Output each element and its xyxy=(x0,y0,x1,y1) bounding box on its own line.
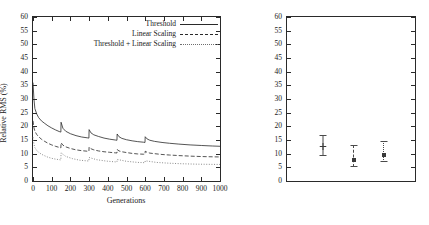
left-x-axis-label: Generations xyxy=(107,196,146,205)
x-tick-label: 500 xyxy=(121,185,132,193)
x-tick-label: 800 xyxy=(177,185,188,193)
y-tick-label: 50 xyxy=(232,41,282,49)
y-tick-label: 5 xyxy=(0,164,28,172)
y-tick-label: 5 xyxy=(232,164,282,172)
series-line xyxy=(33,137,220,164)
y-tick xyxy=(411,167,415,168)
series-line xyxy=(33,83,220,147)
y-tick-label: 0 xyxy=(0,177,28,185)
y-tick xyxy=(411,181,415,182)
y-tick xyxy=(287,99,291,100)
y-tick-label: 10 xyxy=(232,150,282,158)
data-point-marker xyxy=(319,136,326,154)
y-tick-label: 40 xyxy=(232,68,282,76)
y-tick-label: 50 xyxy=(0,41,28,49)
left-chart-panel: Relative RMS (%) 05101520253035404550556… xyxy=(0,0,232,225)
y-tick xyxy=(411,31,415,32)
y-tick xyxy=(411,140,415,141)
legend-item-threshold: Threshold xyxy=(96,19,218,29)
y-tick xyxy=(287,58,291,59)
x-tick-label: 200 xyxy=(65,185,76,193)
y-tick-label: 55 xyxy=(0,27,28,35)
y-tick xyxy=(287,31,291,32)
y-tick xyxy=(411,85,415,86)
y-tick-label: 60 xyxy=(0,13,28,21)
errorbar-line xyxy=(383,141,385,162)
x-tick xyxy=(220,177,221,181)
y-tick-label: 35 xyxy=(232,82,282,90)
errorbar-cap xyxy=(381,161,388,162)
errorbar-ls xyxy=(348,145,360,167)
left-legend: Threshold Linear Scaling Threshold + Lin… xyxy=(96,19,218,49)
y-tick-label: 30 xyxy=(232,95,282,103)
data-point-marker xyxy=(352,158,356,162)
y-tick-label: 20 xyxy=(232,123,282,131)
y-tick-label: 25 xyxy=(232,109,282,117)
x-tick-label: 100 xyxy=(46,185,57,193)
x-tick xyxy=(220,17,221,21)
legend-item-threshold-linear-scaling: Threshold + Linear Scaling xyxy=(96,39,218,49)
y-tick xyxy=(287,140,291,141)
y-tick-label: 60 xyxy=(232,13,282,21)
y-tick xyxy=(33,181,37,182)
y-tick-label: 15 xyxy=(0,136,28,144)
y-tick xyxy=(411,58,415,59)
legend-swatch-solid-icon xyxy=(180,20,218,28)
y-tick xyxy=(287,167,291,168)
legend-label-threshold-linear-scaling: Threshold + Linear Scaling xyxy=(94,40,176,48)
y-tick xyxy=(287,72,291,73)
y-tick-label: 10 xyxy=(0,150,28,158)
errorbar-cap xyxy=(350,166,357,167)
right-chart-panel: 051015202530354045505560 T LS xyxy=(232,0,429,225)
y-tick-label: 30 xyxy=(0,95,28,103)
y-tick xyxy=(287,44,291,45)
y-tick-label: 45 xyxy=(232,54,282,62)
x-tick-label: 700 xyxy=(158,185,169,193)
errorbar-t-ls xyxy=(378,141,390,162)
right-plot-area xyxy=(286,16,416,182)
y-tick xyxy=(411,72,415,73)
y-tick xyxy=(287,181,291,182)
errorbar-t xyxy=(317,135,329,157)
x-tick-label: 600 xyxy=(140,185,151,193)
legend-label-threshold: Threshold xyxy=(146,20,176,28)
errorbar-cap xyxy=(319,135,326,136)
legend-label-linear-scaling: Linear Scaling xyxy=(132,30,176,38)
y-tick-label: 0 xyxy=(232,177,282,185)
y-tick-label: 35 xyxy=(0,82,28,90)
errorbar-line xyxy=(353,145,355,167)
y-tick xyxy=(411,113,415,114)
x-tick-label: 0 xyxy=(31,185,35,193)
y-tick xyxy=(287,17,291,18)
y-tick-label: 15 xyxy=(232,136,282,144)
y-tick xyxy=(411,44,415,45)
legend-swatch-dotted-icon xyxy=(180,40,218,48)
errorbar-cap xyxy=(381,141,388,142)
y-tick-label: 40 xyxy=(0,68,28,76)
data-point-marker xyxy=(382,153,386,157)
errorbar-cap xyxy=(319,155,326,156)
x-tick-label: 900 xyxy=(196,185,207,193)
y-tick xyxy=(216,181,220,182)
y-tick-label: 25 xyxy=(0,109,28,117)
y-tick xyxy=(411,17,415,18)
y-tick xyxy=(411,154,415,155)
figure-root: Relative RMS (%) 05101520253035404550556… xyxy=(0,0,429,225)
y-tick xyxy=(287,154,291,155)
y-tick-label: 55 xyxy=(232,27,282,35)
y-tick xyxy=(411,99,415,100)
y-tick-label: 45 xyxy=(0,54,28,62)
x-tick-label: 1000 xyxy=(213,185,228,193)
x-tick-label: 300 xyxy=(83,185,94,193)
legend-item-linear-scaling: Linear Scaling xyxy=(96,29,218,39)
x-tick-label: 400 xyxy=(102,185,113,193)
y-tick xyxy=(287,113,291,114)
y-tick xyxy=(287,126,291,127)
y-tick-label: 20 xyxy=(0,123,28,131)
y-tick xyxy=(411,126,415,127)
y-tick xyxy=(287,85,291,86)
legend-swatch-dashed-icon xyxy=(180,30,218,38)
errorbar-cap xyxy=(350,145,357,146)
